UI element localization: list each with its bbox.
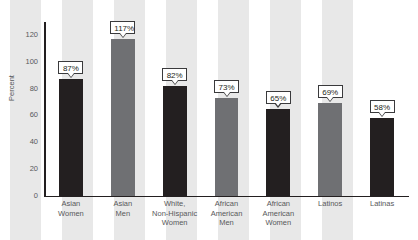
x-axis-label-line: Latinas xyxy=(352,199,412,209)
bar xyxy=(318,103,342,195)
x-axis-label-line: American xyxy=(248,209,308,219)
y-axis-tick-label: 40 xyxy=(4,138,38,146)
x-axis-label-line: Latinos xyxy=(300,199,360,209)
data-label-callout: 65% xyxy=(266,91,291,104)
x-axis-label-line: American xyxy=(197,209,257,219)
callout-pointer-inner-icon xyxy=(172,80,178,84)
callout-pointer-inner-icon xyxy=(327,97,333,101)
y-axis-title: Percent xyxy=(7,58,16,118)
data-label-callout: 87% xyxy=(58,61,83,74)
data-label-callout: 82% xyxy=(162,68,187,81)
y-axis-line xyxy=(44,22,46,197)
x-axis-category-label: White,Non-HispanicWomen xyxy=(145,199,205,228)
bar xyxy=(266,109,290,196)
x-axis-label-line: Non-Hispanic xyxy=(145,209,205,219)
x-axis-category-label: AfricanAmericanMen xyxy=(197,199,257,228)
x-axis-label-line: Women xyxy=(248,218,308,228)
callout-pointer-inner-icon xyxy=(379,112,385,116)
bar xyxy=(215,98,239,195)
callout-pointer-inner-icon xyxy=(68,73,74,77)
y-axis-tick-label: 0 xyxy=(4,192,38,200)
data-label-callout: 69% xyxy=(318,85,343,98)
data-label-callout: 117% xyxy=(110,21,135,34)
x-axis-label-line: Asian xyxy=(93,199,153,209)
x-axis-label-line: White, xyxy=(145,199,205,209)
callout-pointer-inner-icon xyxy=(224,92,230,96)
bar xyxy=(370,118,394,195)
bar-chart: 020406080100120 Percent 87%117%82%73%65%… xyxy=(0,0,418,240)
x-axis-label-line: Men xyxy=(197,218,257,228)
callout-pointer-inner-icon xyxy=(120,33,126,37)
x-axis-label-line: Women xyxy=(145,218,205,228)
x-axis-label-line: African xyxy=(248,199,308,209)
y-axis-tick-label: 20 xyxy=(4,165,38,173)
bar xyxy=(163,86,187,195)
bar xyxy=(59,79,83,195)
y-axis-tick-label: 120 xyxy=(4,31,38,39)
x-axis-category-label: Latinos xyxy=(300,199,360,209)
x-axis-label-line: Men xyxy=(93,209,153,219)
bar xyxy=(111,39,135,195)
x-axis-category-label: Latinas xyxy=(352,199,412,209)
x-axis-category-label: AfricanAmericanWomen xyxy=(248,199,308,228)
x-axis-category-label: AsianMen xyxy=(93,199,153,218)
data-label-callout: 58% xyxy=(370,100,395,113)
x-axis-label-line: African xyxy=(197,199,257,209)
x-axis-line xyxy=(44,196,409,198)
data-label-callout: 73% xyxy=(214,80,239,93)
callout-pointer-inner-icon xyxy=(275,102,281,106)
